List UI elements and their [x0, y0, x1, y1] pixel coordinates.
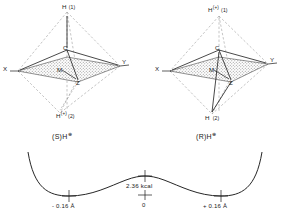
tick-label-left: - 0.16 Å [52, 203, 75, 209]
left-center-atom-label: C [63, 45, 68, 51]
right-apex-top-charge: (+) [213, 5, 219, 10]
stereochemistry-energy-figure: H(1) C X Y M Z H(+)(2) (S)H⊕ H(+)(1) C X… [0, 0, 290, 214]
right-stereo-text: (R)H [196, 133, 212, 140]
left-stereo-charge: ⊕ [68, 132, 72, 137]
tick-label-center: 0 [142, 202, 146, 208]
energy-curve [28, 152, 262, 202]
left-apex-top-label: H(1) [62, 4, 75, 10]
right-apex-bottom-index: (2) [213, 115, 220, 121]
right-stereo-descriptor: (R)H⊕ [196, 133, 216, 140]
right-z-atom-label: Z [229, 80, 233, 86]
left-stereo-descriptor: (S)H⊕ [52, 133, 72, 140]
left-apex-bottom-label: H(+)(2) [56, 112, 75, 119]
right-y-vertex-label: Y [270, 57, 274, 63]
left-apex-top-index: (1) [69, 4, 76, 10]
left-x-vertex-label: X [3, 66, 7, 72]
right-stereo-charge: ⊕ [212, 132, 216, 137]
right-m-atom-label: M [209, 67, 214, 73]
left-structure-geometry [10, 12, 129, 113]
right-apex-bottom-atom: H [205, 114, 210, 121]
right-structure-geometry [162, 16, 277, 114]
tick-label-right: + 0.16 Å [203, 203, 227, 209]
left-stereo-text: (S)H [52, 133, 68, 140]
left-y-vertex-label: Y [122, 59, 126, 65]
right-center-atom-label: C [215, 45, 220, 51]
left-z-atom-label: Z [76, 80, 80, 86]
right-apex-top-label: H(+)(1) [208, 6, 228, 13]
left-apex-bottom-charge: (+) [61, 111, 67, 116]
right-apex-bottom-label: H(2) [205, 115, 219, 121]
left-m-atom-label: M [57, 67, 62, 73]
right-x-vertex-label: X [155, 66, 159, 72]
right-apex-top-index: (1) [221, 7, 228, 13]
barrier-energy-label: 2.36 kcal [126, 183, 153, 189]
left-apex-bottom-index: (2) [68, 113, 75, 119]
left-apex-top-atom: H [62, 3, 67, 10]
